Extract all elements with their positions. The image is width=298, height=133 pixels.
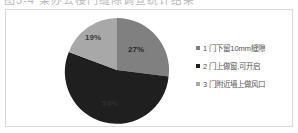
chart-panel: 27% 54% 19% 1 门下留10mm缝隙 2 门上做窗,可开启 3 门附近… [5, 9, 293, 127]
legend-item-label-2: 2 门上做窗,可开启 [203, 62, 260, 71]
legend-item-2[interactable]: 2 门上做窗,可开启 [196, 61, 292, 71]
pie-chart-svg [62, 15, 172, 125]
pie-slice-3-label: 19% [85, 33, 101, 42]
figure-caption: 图3-4 某办公楼门缝隙调查统计结果 [4, 0, 195, 6]
pie-chart[interactable]: 27% 54% 19% [62, 15, 172, 125]
plot-area: 27% 54% 19% 1 门下留10mm缝隙 2 门上做窗,可开启 3 门附近… [6, 10, 294, 128]
pie-slice-1-label: 27% [128, 45, 144, 54]
legend-swatch-icon-3 [196, 82, 200, 86]
legend-item-label-1: 1 门下留10mm缝隙 [203, 44, 265, 53]
legend-item-1[interactable]: 1 门下留10mm缝隙 [196, 43, 292, 53]
pie-slice-2-label: 54% [102, 99, 118, 108]
legend-item-3[interactable]: 3 门附近墙上做风口 [196, 79, 292, 89]
legend-swatch-icon-2 [196, 64, 200, 68]
figure-caption-strip: 图3-4 某办公楼门缝隙调查统计结果 [0, 0, 298, 8]
legend-item-label-3: 3 门附近墙上做风口 [203, 80, 265, 89]
chart-legend: 1 门下留10mm缝隙 2 门上做窗,可开启 3 门附近墙上做风口 [196, 43, 292, 97]
legend-swatch-icon-1 [196, 46, 200, 50]
